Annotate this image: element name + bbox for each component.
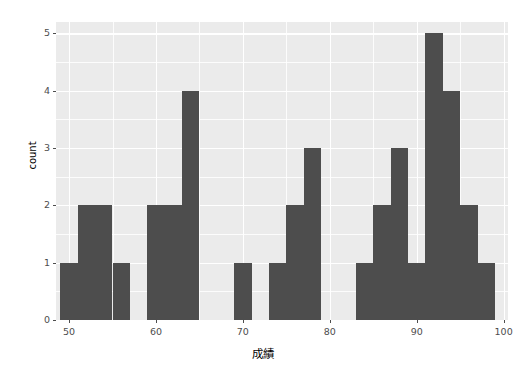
histogram-bar — [425, 33, 442, 320]
y-axis-tick-label: 0 — [30, 314, 50, 325]
histogram-bar — [443, 91, 460, 320]
histogram-bar — [304, 148, 321, 320]
x-axis-tick-label: 50 — [49, 326, 89, 337]
histogram-bar — [460, 205, 477, 320]
x-axis-tick-label: 70 — [223, 326, 263, 337]
gridline-major-vertical — [330, 22, 331, 320]
histogram-bar — [113, 263, 130, 320]
y-axis-tick-mark — [53, 205, 56, 206]
x-axis-tick-mark — [69, 320, 70, 323]
histogram-bar — [391, 148, 408, 320]
y-axis-label: count — [27, 116, 38, 196]
x-axis-tick-label: 80 — [310, 326, 350, 337]
x-axis-label: 成績 — [0, 345, 525, 361]
plot-panel — [56, 22, 508, 320]
y-axis-tick-label: 5 — [30, 27, 50, 38]
x-axis-tick-mark — [417, 320, 418, 323]
histogram-bar — [408, 263, 425, 320]
histogram-bar — [269, 263, 286, 320]
x-axis-tick-mark — [504, 320, 505, 323]
histogram-chart: 0123455060708090100 count 成績 — [0, 0, 525, 386]
histogram-bar — [478, 263, 495, 320]
y-axis-tick-mark — [53, 91, 56, 92]
x-axis-tick-label: 100 — [484, 326, 524, 337]
y-axis-tick-label: 2 — [30, 199, 50, 210]
y-axis-tick-mark — [53, 320, 56, 321]
histogram-bar — [182, 91, 199, 320]
y-axis-tick-mark — [53, 263, 56, 264]
x-axis-tick-mark — [243, 320, 244, 323]
histogram-bar — [78, 205, 95, 320]
y-axis-tick-mark — [53, 148, 56, 149]
x-axis-tick-mark — [330, 320, 331, 323]
histogram-bar — [95, 205, 112, 320]
histogram-bar — [373, 205, 390, 320]
x-axis-tick-label: 60 — [136, 326, 176, 337]
y-axis-tick-label: 4 — [30, 85, 50, 96]
y-axis-tick-mark — [53, 33, 56, 34]
x-axis-tick-mark — [156, 320, 157, 323]
histogram-bar — [286, 205, 303, 320]
histogram-bar — [356, 263, 373, 320]
histogram-bar — [60, 263, 77, 320]
histogram-bar — [165, 205, 182, 320]
gridline-minor-vertical — [199, 22, 200, 320]
gridline-major-vertical — [504, 22, 505, 320]
x-axis-tick-label: 90 — [397, 326, 437, 337]
y-axis-tick-label: 1 — [30, 257, 50, 268]
histogram-bar — [147, 205, 164, 320]
histogram-bar — [234, 263, 251, 320]
